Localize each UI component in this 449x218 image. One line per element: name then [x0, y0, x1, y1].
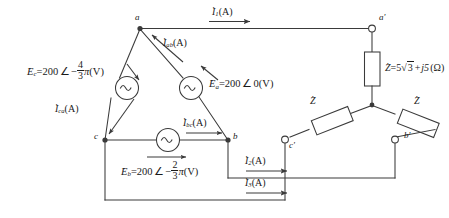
source-ec-unit: (V) — [89, 66, 104, 77]
current-label-i3: ·I3(A) — [245, 178, 266, 189]
source-eb-angle-symbol: ∠ — [153, 166, 166, 177]
current-label-i1: ·I1(A) — [212, 7, 233, 18]
phasor-dot-ica: · — [55, 101, 58, 111]
source-ea-angle-symbol: ∠ — [241, 78, 254, 89]
phasor-dot-ec: · — [29, 64, 32, 74]
node-b-dot — [225, 137, 230, 142]
impedance-label-c: ·Z — [310, 96, 316, 106]
current-iab-subscript: ab — [166, 41, 173, 48]
phasor-dot-zb: · — [415, 93, 418, 103]
source-eb-unit: (V) — [184, 166, 199, 177]
phasor-dot-ea: · — [211, 76, 214, 86]
wire-a-to-source-ec — [120, 29, 141, 78]
source-label-eb: ·Eb=200∠−23π(V) — [121, 160, 198, 181]
node-a-dot — [137, 26, 142, 31]
impedance-box-a — [365, 52, 381, 86]
impedance-imaginary: j5 — [421, 62, 429, 73]
source-ec-magnitude: 200 — [42, 66, 58, 77]
current-i1-unit: (A) — [219, 6, 233, 17]
phasor-dot-eb: · — [123, 164, 126, 174]
ac-source-ec-sine — [121, 86, 131, 91]
node-label-a: a — [135, 13, 140, 22]
impedance-radicand: 3 — [407, 61, 414, 73]
terminal-aprime — [369, 25, 376, 32]
source-ea-unit: (V) — [259, 78, 274, 89]
circuit-diagram: a a' b b' c c' ·I1(A) ·I2(A) ·I3(A) ·Iab… — [0, 0, 449, 218]
node-label-a-prime: a' — [379, 13, 385, 22]
wire-zc-to-cprime — [290, 130, 309, 138]
source-label-ea: ·Ea=200∠0(V) — [209, 79, 273, 90]
current-label-iab: ·Iab(A) — [163, 38, 187, 49]
phasor-dot-iab: · — [163, 35, 166, 45]
current-label-i2: ·I2(A) — [245, 156, 266, 167]
source-label-ec: ·Ec=200∠−43π(V) — [27, 60, 104, 81]
source-eb-magnitude: 200 — [137, 166, 153, 177]
ac-source-ec-circle — [116, 77, 139, 100]
current-label-ica: ·Ica(A) — [55, 104, 78, 115]
impedance-equation-label: ·Z=5√3+j5(Ω) — [385, 63, 444, 73]
source-ec-angle-symbol: ∠ — [58, 66, 71, 77]
node-label-c-prime: c' — [289, 141, 295, 150]
ac-source-ea-circle — [180, 77, 203, 100]
phasor-dot-ibc: · — [183, 115, 186, 125]
phasor-dot-i2: · — [245, 153, 248, 163]
ac-source-eb-circle — [157, 129, 180, 152]
impedance-unit: (Ω) — [429, 62, 444, 73]
phasor-dot-i3: · — [245, 175, 248, 185]
phasor-dot-z: · — [386, 60, 389, 70]
node-label-b: b — [233, 132, 238, 141]
radical-icon: √3 — [401, 63, 414, 73]
current-i3-unit: (A) — [252, 177, 266, 188]
impedance-box-c — [311, 106, 353, 134]
wire-source-ec-to-c — [105, 98, 111, 140]
terminal-bprime — [392, 136, 399, 143]
node-c-dot — [102, 137, 107, 142]
current-ibc-unit: (A) — [193, 117, 207, 128]
phasor-dot-i1: · — [212, 4, 215, 14]
source-ea-magnitude: 200 — [225, 78, 241, 89]
wire-star-to-zc — [349, 106, 371, 114]
ac-source-ea-sine — [185, 86, 195, 91]
node-label-b-prime: b' — [404, 131, 410, 140]
wire-star-to-zb — [374, 106, 396, 114]
current-i2-unit: (A) — [252, 155, 266, 166]
star-neutral-node — [370, 103, 375, 108]
terminal-cprime — [282, 136, 289, 143]
node-label-c: c — [94, 132, 98, 141]
current-iab-unit: (A) — [173, 37, 187, 48]
phasor-dot-zc: · — [311, 93, 314, 103]
current-ica-unit: (A) — [65, 103, 79, 114]
ac-source-eb-sine — [162, 138, 172, 143]
current-label-ibc: ·Ibc(A) — [183, 118, 206, 129]
arrow-ica — [109, 99, 134, 134]
impedance-label-b: ·Z — [414, 96, 420, 106]
